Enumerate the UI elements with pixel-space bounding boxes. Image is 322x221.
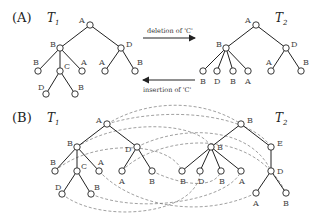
svg-text:E: E [277, 139, 283, 148]
svg-text:B: B [149, 177, 155, 186]
svg-text:D: D [291, 40, 297, 49]
svg-text:B: B [94, 183, 100, 192]
svg-text:A: A [244, 77, 251, 86]
svg-text:B: B [283, 199, 289, 208]
svg-text:B: B [217, 143, 223, 152]
svg-text:D: D [125, 145, 131, 154]
svg-text:D: D [277, 167, 283, 176]
svg-text:B: B [303, 58, 309, 67]
deletion-label: deletion of 'C' [147, 27, 193, 35]
panel-a-t2-title: T2 [275, 11, 288, 27]
panel-b-t2-nodes [179, 121, 289, 196]
svg-text:A: A [95, 116, 102, 125]
svg-text:D: D [214, 77, 220, 86]
panel-b-t2-title: T2 [275, 111, 288, 127]
svg-text:A: A [80, 58, 87, 67]
panel-b-label: (B) [12, 110, 32, 125]
svg-text:B: B [137, 58, 143, 67]
svg-text:A: A [265, 58, 272, 67]
svg-text:A: A [97, 158, 104, 167]
svg-text:D: D [55, 183, 61, 192]
panel-a-label: (A) [12, 10, 32, 25]
svg-text:B: B [180, 177, 186, 186]
svg-text:A: A [244, 16, 251, 25]
svg-text:A: A [238, 177, 245, 186]
svg-text:B: B [78, 83, 84, 92]
svg-text:D: D [126, 40, 132, 49]
panel-a-t1-title: T1 [47, 11, 59, 27]
panel-b-t1-title: T1 [47, 111, 59, 127]
svg-text:D: D [198, 177, 204, 186]
svg-text:A: A [98, 58, 105, 67]
svg-text:A: A [252, 199, 259, 208]
svg-text:B: B [50, 40, 56, 49]
svg-text:B: B [247, 116, 253, 125]
svg-text:A: A [78, 16, 85, 25]
svg-text:B: B [230, 77, 236, 86]
panel-b-t2-labels: B B E B D B A D A B [180, 116, 289, 208]
svg-text:B: B [33, 58, 39, 67]
svg-text:C: C [64, 62, 70, 71]
svg-text:C: C [81, 162, 87, 171]
svg-text:A: A [118, 177, 125, 186]
svg-text:B: B [219, 177, 225, 186]
svg-text:B: B [50, 158, 56, 167]
insertion-label: insertion of 'C' [143, 86, 192, 94]
svg-text:B: B [216, 40, 222, 49]
svg-text:D: D [38, 83, 44, 92]
svg-text:B: B [200, 77, 206, 86]
tree-edit-diagram: (A) T1 T2 A B D B C A A B D B [0, 0, 322, 221]
svg-text:B: B [67, 139, 73, 148]
